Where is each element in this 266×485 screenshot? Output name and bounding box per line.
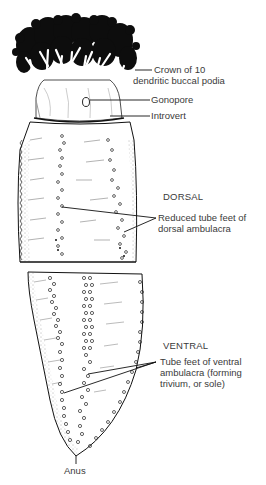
dorsal-body bbox=[18, 122, 137, 262]
label-introvert: Introvert bbox=[151, 110, 186, 121]
label-anus: Anus bbox=[64, 465, 86, 476]
label-crown-line1: Crown of 10 bbox=[154, 64, 225, 75]
view-title-ventral: VENTRAL bbox=[163, 340, 208, 351]
label-ventral-feet-line2: ambulacra (forming bbox=[160, 367, 242, 378]
label-crown: Crown of 10 dendritic buccal podia bbox=[154, 64, 225, 86]
view-title-dorsal: DORSAL bbox=[163, 191, 203, 202]
sea-cucumber-diagram bbox=[0, 0, 266, 485]
dorsal-view bbox=[12, 13, 140, 262]
label-ventral-tube-feet: Tube feet of ventral ambulacra (forming … bbox=[160, 356, 242, 389]
label-crown-line2: dendritic buccal podia bbox=[133, 75, 225, 86]
label-ventral-feet-line3: trivium, or sole) bbox=[160, 378, 242, 389]
label-gonopore: Gonopore bbox=[151, 94, 193, 105]
label-dorsal-feet-line1: Reduced tube feet of bbox=[158, 212, 246, 223]
label-dorsal-feet-line2: dorsal ambulacra bbox=[158, 223, 246, 234]
label-ventral-feet-line1: Tube feet of ventral bbox=[160, 356, 242, 367]
tentacle-crown bbox=[12, 13, 140, 122]
label-dorsal-tube-feet: Reduced tube feet of dorsal ambulacra bbox=[158, 212, 246, 234]
ventral-view bbox=[28, 272, 144, 464]
